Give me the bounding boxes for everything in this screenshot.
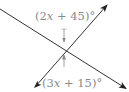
arrowhead-bottom-left-icon	[34, 81, 42, 88]
top-angle-label: (2x + 45)°	[35, 9, 95, 23]
vertical-angles-diagram: (2x + 45)° (3x + 15)°	[0, 0, 129, 92]
bottom-angle-label: (3x + 15)°	[42, 76, 102, 90]
